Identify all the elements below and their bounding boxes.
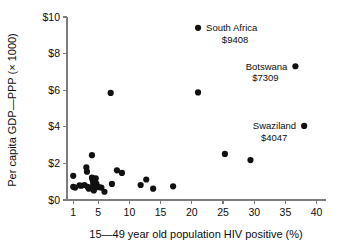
x-tick-label: 35: [280, 206, 292, 218]
data-point: [247, 157, 253, 163]
x-tick-label: 10: [124, 206, 136, 218]
y-tick-label: $0: [48, 194, 60, 206]
x-tick-label: 20: [186, 206, 198, 218]
y-tick-label: $4: [48, 120, 60, 132]
y-tick-label: $2: [48, 157, 60, 169]
data-point: [222, 151, 228, 157]
annotation-value: $7309: [252, 72, 278, 83]
y-tick-label: $6: [48, 84, 60, 96]
x-tick-label: 1: [70, 206, 76, 218]
x-tick-label: 30: [248, 206, 260, 218]
data-point: [150, 186, 156, 192]
x-tick-label: 5: [95, 206, 101, 218]
data-points: [70, 25, 307, 195]
annotation-country-name: Swaziland: [253, 120, 296, 131]
data-point: [138, 182, 144, 188]
x-tick-label: 40: [311, 206, 323, 218]
data-point-labeled: [292, 63, 298, 69]
annotation-value: $4047: [261, 132, 287, 143]
y-tick-label: $8: [48, 47, 60, 59]
y-axis-label: Per capita GDP—PPP (× 1000): [6, 33, 18, 187]
data-point: [195, 89, 201, 95]
data-point: [108, 90, 114, 96]
data-point: [89, 152, 95, 158]
data-point: [84, 169, 90, 175]
data-point-labeled: [195, 25, 201, 31]
data-point: [170, 183, 176, 189]
plot-area: $0$2$4$6$8$101510152025303540 South Afri…: [0, 0, 340, 250]
x-tick-label: 25: [217, 206, 229, 218]
y-tick-label: $10: [42, 11, 60, 23]
x-axis-label: 15—49 year old population HIV positive (…: [89, 228, 302, 240]
data-point: [119, 170, 125, 176]
data-point: [143, 176, 149, 182]
annotation-value: $9408: [222, 34, 248, 45]
scatter-chart-figure: $0$2$4$6$8$101510152025303540 South Afri…: [0, 0, 340, 250]
x-tick-label: 15: [155, 206, 167, 218]
data-point: [101, 189, 107, 195]
annotation-south-africa: South Africa$9408: [206, 22, 258, 45]
point-annotations: South Africa$9408Botswana$7309Swaziland$…: [206, 22, 296, 143]
annotation-botswana: Botswana$7309: [246, 61, 288, 84]
data-point: [70, 173, 76, 179]
annotation-swaziland: Swaziland$4047: [253, 120, 296, 143]
annotation-country-name: South Africa: [206, 22, 258, 33]
axes: [67, 17, 326, 200]
data-point-labeled: [301, 123, 307, 129]
annotation-country-name: Botswana: [246, 61, 288, 72]
data-point: [109, 181, 115, 187]
